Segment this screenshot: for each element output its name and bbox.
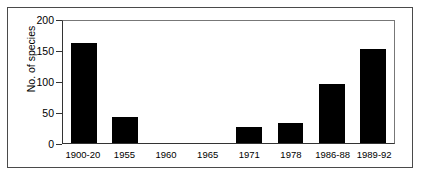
x-axis-tick-label: 1965 bbox=[187, 149, 229, 160]
x-axis-tick-label: 1989-92 bbox=[353, 149, 395, 160]
bar-slot bbox=[63, 21, 104, 143]
y-axis-tick-label: 0 bbox=[14, 138, 54, 150]
x-axis-tick-label: 1978 bbox=[270, 149, 312, 160]
bar-slot bbox=[146, 21, 187, 143]
x-axis-tick-label: 1900-20 bbox=[62, 149, 104, 160]
bar-slot bbox=[187, 21, 228, 143]
bar bbox=[112, 117, 138, 143]
bar bbox=[71, 43, 97, 143]
bar-slot bbox=[104, 21, 145, 143]
x-axis-tick-label: 1960 bbox=[145, 149, 187, 160]
bar bbox=[319, 84, 345, 143]
y-axis-tick-label: 100 bbox=[14, 76, 54, 88]
bar-slot bbox=[270, 21, 311, 143]
y-axis-tick bbox=[56, 144, 62, 145]
figure: No. of species 050100150200 1900-2019551… bbox=[0, 0, 422, 179]
bar-slot bbox=[353, 21, 394, 143]
y-axis-tick-label: 200 bbox=[14, 14, 54, 26]
plot-area bbox=[62, 20, 395, 144]
bar bbox=[278, 123, 304, 143]
x-axis-tick-label: 1986-88 bbox=[312, 149, 354, 160]
x-axis-tick-label: 1971 bbox=[229, 149, 271, 160]
bar-slot bbox=[311, 21, 352, 143]
y-axis-tick-label: 150 bbox=[14, 45, 54, 57]
bar-slot bbox=[229, 21, 270, 143]
bar bbox=[236, 127, 262, 143]
y-axis-tick-label: 50 bbox=[14, 107, 54, 119]
x-axis-tick-labels: 1900-20195519601965197119781986-881989-9… bbox=[62, 149, 395, 160]
bar-series bbox=[63, 21, 394, 143]
bar bbox=[360, 49, 386, 143]
x-axis-tick-label: 1955 bbox=[104, 149, 146, 160]
